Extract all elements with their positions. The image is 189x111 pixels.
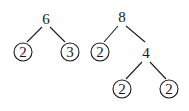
factor-tree-6: 6 2 3 — [14, 11, 79, 61]
tree1-edge-right — [50, 27, 65, 42]
tree1-edge-left — [27, 27, 42, 42]
tree2-root-label: 8 — [118, 9, 126, 25]
tree2-mid-left-label: 2 — [118, 81, 126, 97]
tree2-mid-edge-right — [150, 62, 166, 79]
tree2-edge-left — [104, 26, 118, 42]
factor-trees-diagram: 6 2 3 8 2 4 2 2 — [0, 0, 189, 111]
tree2-mid-edge-left — [126, 62, 142, 79]
tree1-left-label: 2 — [19, 44, 27, 60]
tree2-mid-label: 4 — [142, 45, 150, 61]
tree2-edge-right — [126, 26, 145, 42]
factor-tree-8: 8 2 4 2 2 — [91, 9, 178, 98]
tree1-right-label: 3 — [66, 44, 74, 60]
tree2-left-label: 2 — [96, 44, 104, 60]
tree2-mid-right-label: 2 — [165, 81, 173, 97]
tree1-root-label: 6 — [42, 11, 50, 27]
